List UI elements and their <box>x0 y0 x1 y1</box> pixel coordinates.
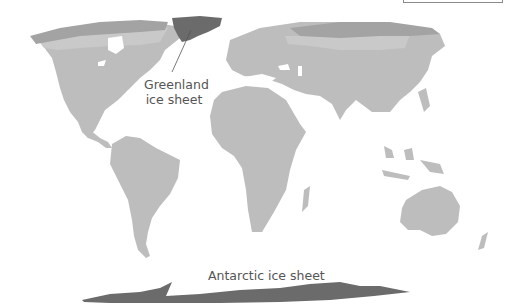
greenland-label-line1: Greenland <box>144 77 204 92</box>
south-america <box>110 136 180 258</box>
africa <box>210 86 306 232</box>
greenland-ice-sheet <box>172 16 222 42</box>
world-map: Greenland ice sheet Antarctic ice sheet <box>0 0 509 307</box>
legend-box <box>403 0 503 3</box>
antarctic-ice-sheet <box>82 282 410 303</box>
world-map-svg <box>0 0 509 307</box>
australia <box>400 186 460 236</box>
antarctic-label: Antarctic ice sheet <box>208 268 325 283</box>
greenland-label-line2: ice sheet <box>144 92 204 107</box>
madagascar <box>302 186 310 212</box>
new-zealand <box>478 232 488 250</box>
greenland-label: Greenland ice sheet <box>144 77 204 107</box>
